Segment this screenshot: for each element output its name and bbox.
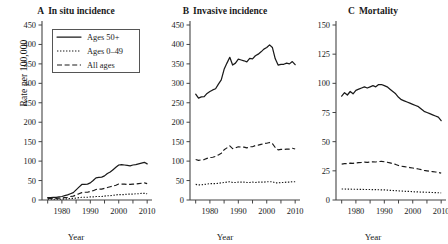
series-line-solid [342,85,441,121]
x-tick-label: 1990 [230,207,247,216]
series-line-solid [48,162,147,197]
panel-c-mortality: CMortality 02550751001251501980199020002… [298,0,448,244]
legend-label: Ages 0–49 [87,47,123,56]
y-tick-label: 300 [171,79,184,88]
y-tick-label: 300 [23,79,36,88]
legend-swatch-dashed-icon [56,61,82,69]
series-line-dashed [342,161,441,173]
y-tick-label: 150 [171,138,184,147]
y-tick-label: 100 [23,157,36,166]
y-tick-label: 25 [322,167,330,176]
y-tick-label: 0 [326,196,330,205]
series-line-dashed [196,142,295,160]
series-line-dotted [196,182,295,185]
y-tick-label: 150 [23,138,36,147]
y-tick-label: 0 [32,196,36,205]
y-tick-label: 0 [180,196,184,205]
y-tick-label: 100 [171,157,184,166]
y-tick-label: 450 [171,21,184,30]
y-tick-label: 350 [23,60,36,69]
y-tick-label: 200 [23,118,36,127]
y-tick-label: 150 [317,21,330,30]
series-line-dotted [342,189,441,193]
legend: Ages 50+Ages 0–49All ages [52,29,140,73]
legend-label: All ages [87,61,115,70]
panel-c-svg: 02550751001251501980199020002010 [298,0,448,244]
panel-c-plot-area: 02550751001251501980199020002010 [298,0,448,244]
y-tick-label: 400 [171,40,184,49]
legend-item: Ages 0–49 [53,44,139,58]
y-tick-label: 100 [317,79,330,88]
x-tick-label: 1980 [54,207,71,216]
y-tick-label: 125 [317,50,330,59]
x-tick-label: 1980 [202,207,219,216]
x-tick-label: 1980 [348,207,365,216]
series-line-solid [196,45,295,98]
x-tick-label: 2000 [258,207,275,216]
panel-c-x-axis-label: Year [298,232,448,242]
y-tick-label: 200 [171,118,184,127]
x-tick-label: 2000 [110,207,127,216]
x-tick-label: 2000 [404,207,421,216]
legend-item: All ages [53,58,139,72]
x-tick-label: 2010 [433,207,448,216]
panel-b-svg: 0501001502002503003504004501980199020002… [150,0,300,244]
x-tick-label: 1990 [82,207,99,216]
legend-swatch-solid-icon [56,33,82,41]
panel-a-in-situ-incidence: AIn situ incidence 050100150200250300350… [0,0,152,244]
figure-three-panel-rates: Rate per 100,000 AIn situ incidence 0501… [0,0,448,244]
legend-label: Ages 50+ [87,33,119,42]
y-tick-label: 350 [171,60,184,69]
x-tick-label: 1990 [376,207,393,216]
panel-a-x-axis-label: Year [0,232,152,242]
panel-b-invasive-incidence: BInvasive incidence 05010015020025030035… [150,0,300,244]
y-tick-label: 250 [171,99,184,108]
y-tick-label: 250 [23,99,36,108]
panel-b-plot-area: 0501001502002503003504004501980199020002… [150,0,300,244]
y-tick-label: 50 [322,138,330,147]
panel-b-x-axis-label: Year [150,232,300,242]
y-tick-label: 50 [28,177,36,186]
legend-swatch-dotted-icon [56,47,82,55]
y-tick-label: 75 [322,109,330,118]
legend-item: Ages 50+ [53,30,139,44]
y-tick-label: 50 [176,177,184,186]
y-tick-label: 400 [23,40,36,49]
y-tick-label: 450 [23,21,36,30]
